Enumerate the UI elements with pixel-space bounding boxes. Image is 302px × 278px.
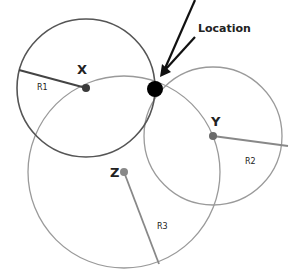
- radius-label-r2: R2: [245, 157, 256, 166]
- location-dot: [147, 81, 163, 97]
- location-arrow-line: [163, 0, 195, 73]
- radius-label-r3: R3: [157, 222, 168, 231]
- radius-line-r3: [124, 172, 159, 264]
- location-label: Location: [198, 22, 251, 35]
- point-y-dot: [209, 132, 217, 140]
- diagram-svg: Location X Y Z R1 R2 R3: [0, 0, 302, 278]
- point-x-dot: [82, 84, 90, 92]
- radius-line-r2: [213, 136, 288, 146]
- point-z-dot: [120, 168, 128, 176]
- point-y-label: Y: [210, 114, 221, 129]
- trilateration-diagram: Location X Y Z R1 R2 R3: [0, 0, 302, 278]
- point-z-label: Z: [110, 165, 119, 180]
- radius-label-r1: R1: [37, 83, 48, 92]
- point-x-label: X: [77, 62, 87, 77]
- radius-line-r1: [19, 70, 86, 88]
- location-arrow-shaft: [165, 37, 195, 70]
